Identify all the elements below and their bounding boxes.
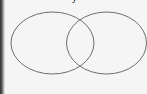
- venn-svg: [0, 0, 147, 94]
- right-set-ellipse: [67, 12, 147, 74]
- left-set-ellipse: [11, 12, 94, 74]
- venn-diagram-canvas: y: [0, 0, 147, 94]
